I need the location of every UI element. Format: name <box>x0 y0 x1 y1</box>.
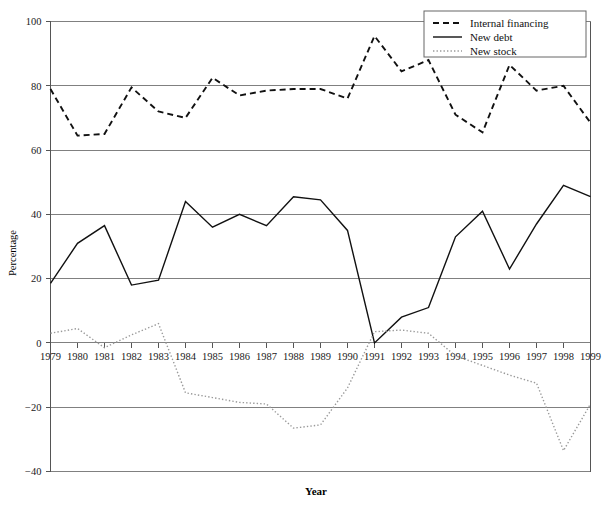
x-tick-label: 1982 <box>121 351 142 362</box>
x-tick-label: 1980 <box>67 351 88 362</box>
y-tick-label: 20 <box>31 273 42 284</box>
y-tick-label: 80 <box>31 81 42 92</box>
x-tick-label: 1985 <box>202 351 223 362</box>
x-tick-label: 1989 <box>310 351 331 362</box>
x-tick-label: 1983 <box>148 351 169 362</box>
y-tick-labels: −40−20020406080100 <box>25 16 41 477</box>
x-tick-label: 1993 <box>418 351 439 362</box>
x-tick-label: 1984 <box>175 351 197 362</box>
axis-titles: Percentage Year <box>7 230 327 497</box>
x-tick-label: 1987 <box>256 351 277 362</box>
legend-label: New debt <box>470 31 512 43</box>
x-axis-title: Year <box>305 485 327 497</box>
y-tick-label: 60 <box>31 145 42 156</box>
y-axis <box>46 22 591 472</box>
x-tick-label: 1988 <box>283 351 304 362</box>
x-tick-label: 1994 <box>445 351 467 362</box>
y-tick-label: −20 <box>25 402 41 413</box>
x-tick-label: 1997 <box>526 351 547 362</box>
legend: Internal financingNew debtNew stock <box>424 11 586 57</box>
series-new-debt <box>51 185 591 343</box>
y-tick-label: 40 <box>31 209 42 220</box>
x-axis <box>51 343 591 348</box>
x-tick-label: 1998 <box>553 351 574 362</box>
x-tick-label: 1981 <box>94 351 115 362</box>
legend-label: New stock <box>470 45 517 57</box>
y-tick-label: −40 <box>25 466 41 477</box>
x-tick-label: 1990 <box>337 351 358 362</box>
x-tick-label: 1991 <box>364 351 385 362</box>
x-tick-label: 1996 <box>499 351 520 362</box>
line-chart: −40−20020406080100 197919801981198219831… <box>0 0 612 507</box>
x-tick-labels: 1979198019811982198319841985198619871988… <box>40 351 601 362</box>
x-tick-label: 1992 <box>391 351 412 362</box>
y-tick-label: 0 <box>36 338 41 349</box>
legend-label: Internal financing <box>470 17 549 29</box>
x-tick-label: 1995 <box>472 351 493 362</box>
y-tick-label: 100 <box>26 16 42 27</box>
y-axis-title: Percentage <box>7 230 18 276</box>
x-tick-label: 1979 <box>40 351 61 362</box>
chart-container: −40−20020406080100 197919801981198219831… <box>0 0 612 507</box>
x-tick-label: 1999 <box>580 351 601 362</box>
data-series <box>51 36 591 451</box>
x-tick-label: 1986 <box>229 351 250 362</box>
